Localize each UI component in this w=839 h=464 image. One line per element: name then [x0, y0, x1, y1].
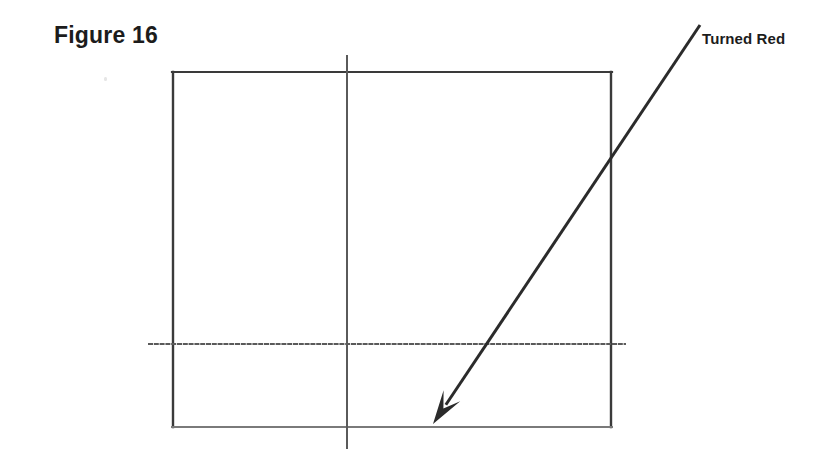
scan-artifact-speck: [104, 77, 107, 81]
turned-red-annotation-label: Turned Red: [702, 31, 785, 46]
figure-caption: Figure 16: [54, 24, 158, 47]
page-background: [0, 0, 839, 464]
figure-diagram-canvas: [0, 0, 839, 464]
